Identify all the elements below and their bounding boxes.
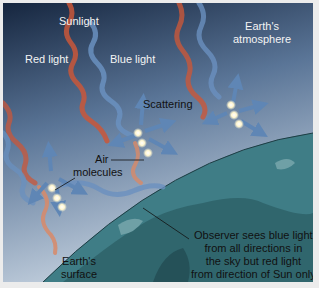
- label-observer-line2: from all directions in: [191, 242, 313, 255]
- label-sunlight: Sunlight: [59, 15, 99, 28]
- label-observer: Observer sees blue light from all direct…: [191, 229, 313, 281]
- label-surface-line1: Earth's: [61, 255, 97, 268]
- label-atmosphere-line2: atmosphere: [233, 33, 291, 46]
- label-earths-atmosphere: Earth's atmosphere: [233, 20, 291, 46]
- label-surface-line2: surface: [61, 268, 97, 281]
- label-atmosphere-line1: Earth's: [233, 20, 291, 33]
- label-air-line1: Air: [73, 153, 123, 166]
- label-air-molecules: Air molecules: [73, 153, 123, 179]
- label-scattering: Scattering: [143, 98, 193, 111]
- label-air-line2: molecules: [73, 166, 123, 179]
- label-earths-surface: Earth's surface: [61, 255, 97, 281]
- label-blue-light: Blue light: [110, 53, 155, 66]
- label-observer-line4: from direction of Sun only: [191, 268, 313, 281]
- label-red-light: Red light: [25, 53, 68, 66]
- scattering-diagram: Sunlight Red light Blue light Earth's at…: [3, 3, 313, 282]
- label-observer-line1: Observer sees blue light: [191, 229, 313, 242]
- label-observer-line3: the sky but red light: [191, 255, 313, 268]
